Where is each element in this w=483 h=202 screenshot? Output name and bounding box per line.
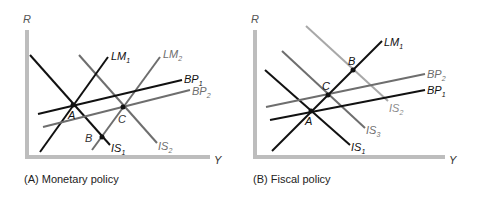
label-lm1: LM1 xyxy=(111,50,130,64)
label-lm1: LM1 xyxy=(384,36,403,50)
label-c: C xyxy=(118,113,126,125)
label-c: C xyxy=(322,80,330,92)
point-b xyxy=(351,68,356,73)
axis-label-y: Y xyxy=(449,154,457,166)
label-is3: IS3 xyxy=(366,124,380,138)
label-lm2: LM2 xyxy=(163,48,182,62)
label-is2: IS2 xyxy=(158,140,172,154)
point-c xyxy=(121,105,126,110)
is2-curve xyxy=(79,55,157,143)
label-is1: IS1 xyxy=(111,142,125,156)
point-c xyxy=(326,93,331,98)
label-is1: IS1 xyxy=(351,141,365,155)
caption-monetary-policy: (A) Monetary policy xyxy=(24,173,119,185)
axis-label-r: R xyxy=(23,13,31,25)
axis-label-y: Y xyxy=(214,154,222,166)
point-a xyxy=(309,109,314,114)
label-bp2: BP2 xyxy=(192,85,211,99)
caption-fiscal-policy: (B) Fiscal policy xyxy=(253,173,331,185)
panel-monetary-policy: R Y A C B LM1 LM2 BP1 BP2 IS1 IS2 (A) Mo… xyxy=(23,13,222,185)
point-a xyxy=(71,103,76,108)
label-b: B xyxy=(85,132,92,144)
axis-label-r: R xyxy=(251,13,259,25)
label-is2: IS2 xyxy=(389,102,403,116)
diagram-canvas: R Y A C B LM1 LM2 BP1 BP2 IS1 IS2 (A) Mo… xyxy=(0,0,483,202)
panel-fiscal-policy: R Y A C B LM1 BP2 BP1 IS2 IS3 IS1 (B) Fi… xyxy=(251,13,457,185)
label-b: B xyxy=(348,55,355,67)
label-bp1: BP1 xyxy=(427,84,446,98)
point-b xyxy=(100,135,105,140)
label-a: A xyxy=(304,115,312,127)
bp2-curve xyxy=(266,74,425,107)
label-a: A xyxy=(67,109,75,121)
label-bp2: BP2 xyxy=(427,68,446,82)
